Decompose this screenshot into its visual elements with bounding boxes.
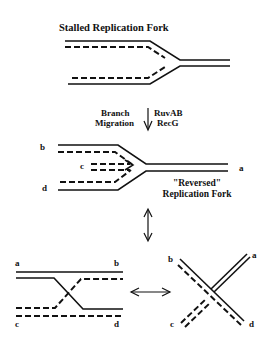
double-arrow-vertical-icon [144, 209, 152, 241]
stalled-fork [65, 41, 230, 84]
end-label-c: c [80, 161, 84, 171]
hj-left-label-b: b [114, 258, 119, 268]
end-label-a: a [239, 163, 244, 173]
double-arrow-horizontal-icon [131, 288, 170, 296]
hj-left-label-a: a [15, 258, 20, 268]
hj-left-label-d: d [114, 319, 119, 329]
reversed-caption-line1: "Reversed" [173, 178, 221, 188]
hj-right-label-d: d [249, 319, 254, 329]
holliday-junction-x [178, 254, 250, 327]
holliday-junction-planar [16, 272, 123, 316]
hj-right-label-c: c [170, 319, 174, 329]
down-arrow-icon [144, 108, 152, 130]
title: Stalled Replication Fork [59, 22, 169, 33]
hj-right-label-b: b [168, 254, 173, 264]
reversed-caption-line2: Replication Fork [163, 189, 233, 199]
recg-label: RecG [157, 118, 179, 128]
end-label-b: b [40, 142, 45, 152]
migration-label: Migration [95, 118, 134, 128]
replication-fork-diagram: Stalled Replication Fork Branch Migratio… [0, 0, 267, 341]
end-label-d: d [42, 183, 47, 193]
hj-left-label-c: c [15, 319, 19, 329]
ruvab-label: RuvAB [154, 108, 183, 118]
hj-right-label-a: a [252, 250, 257, 260]
branch-label: Branch [101, 108, 130, 118]
